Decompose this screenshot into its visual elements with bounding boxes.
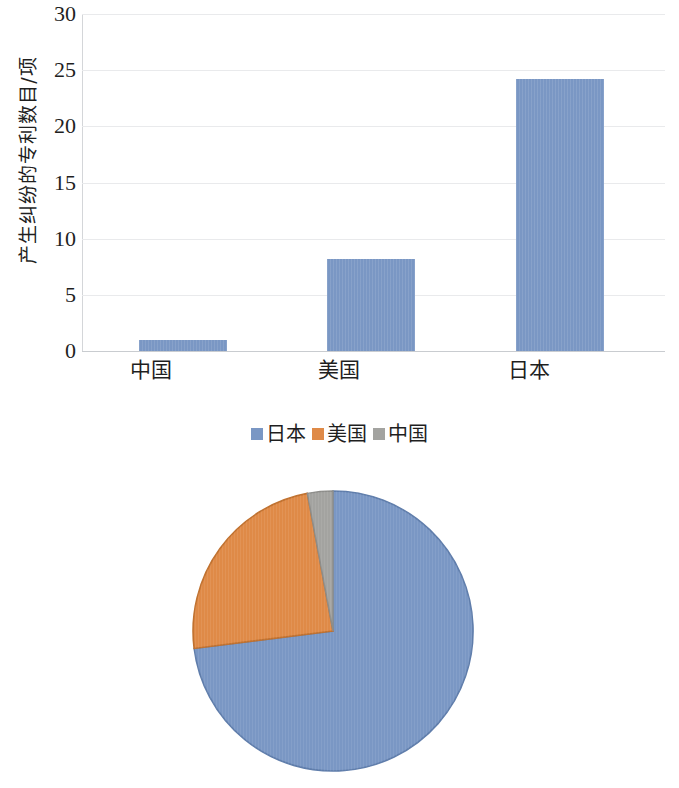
pie-chart: 日本 美国 中国 bbox=[0, 400, 679, 788]
x-tick-china: 中国 bbox=[82, 358, 220, 382]
x-tick-japan: 日本 bbox=[459, 358, 599, 382]
bar-chart: 30 25 20 15 10 5 0 中国 美国 日本 产生纠纷的专利数目/项 bbox=[0, 0, 679, 400]
x-tick-usa: 美国 bbox=[269, 358, 409, 382]
legend-swatch-japan bbox=[251, 428, 263, 440]
legend-label-china: 中国 bbox=[388, 424, 428, 444]
bar-chart-y-axis-title: 产生纠纷的专利数目/项 bbox=[18, 10, 38, 310]
legend-label-usa: 美国 bbox=[327, 424, 367, 444]
gridline-25 bbox=[82, 70, 665, 71]
legend-item-usa: 美国 bbox=[312, 424, 367, 444]
gridline-30 bbox=[82, 14, 665, 15]
bar-chart-plot-area bbox=[82, 14, 665, 351]
pie-chart-legend: 日本 美国 中国 bbox=[0, 424, 679, 444]
bar-chart-x-axis-line bbox=[82, 351, 665, 352]
legend-label-japan: 日本 bbox=[266, 424, 306, 444]
legend-swatch-usa bbox=[312, 428, 324, 440]
bar-usa bbox=[327, 259, 415, 351]
legend-item-china: 中国 bbox=[373, 424, 428, 444]
y-tick-0: 0 bbox=[32, 340, 76, 362]
legend-item-japan: 日本 bbox=[251, 424, 306, 444]
y-tick-30: 30 bbox=[32, 3, 76, 25]
legend-swatch-china bbox=[373, 428, 385, 440]
y-tick-5: 5 bbox=[32, 284, 76, 306]
bar-japan bbox=[516, 79, 604, 351]
bar-china bbox=[139, 340, 227, 351]
pie-chart-graphic bbox=[192, 490, 474, 788]
